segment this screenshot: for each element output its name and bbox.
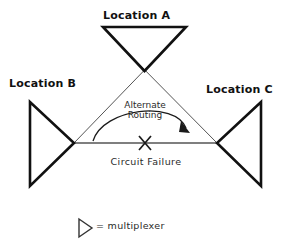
alternate-routing-line-2: Routing [113, 110, 177, 120]
network-links [74, 54, 217, 143]
node-a-multiplexer-icon [103, 27, 186, 71]
alternate-routing-line-1: Alternate [124, 100, 166, 110]
diagram-canvas [0, 0, 289, 248]
node-c-label: Location C [206, 84, 273, 96]
node-b-label: Location B [9, 78, 76, 90]
node-c-multiplexer-icon [217, 102, 261, 186]
legend-label: = multiplexer [96, 221, 165, 231]
node-b-multiplexer-icon [30, 102, 74, 186]
legend-multiplexer-icon [79, 219, 92, 237]
circuit-failure-label: Circuit Failure [98, 157, 194, 167]
node-a-label: Location A [103, 10, 170, 22]
alternate-routing-label: Alternate Routing [113, 100, 177, 120]
network-diagram: Location A Location B Location C Alterna… [0, 0, 289, 248]
